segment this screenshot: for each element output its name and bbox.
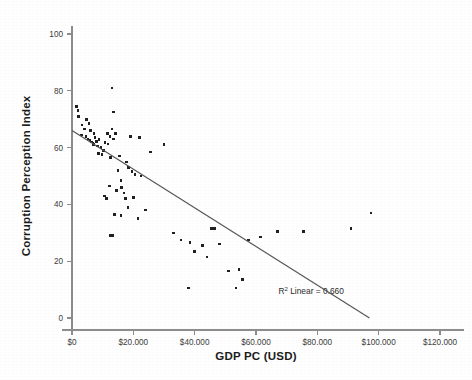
x-tick-label: $20.000	[119, 338, 149, 347]
x-tick-label: $120.000	[423, 338, 458, 347]
data-point	[144, 209, 147, 212]
data-point	[81, 124, 84, 127]
x-tick-label: $60.000	[241, 338, 271, 347]
data-point	[115, 189, 118, 192]
data-point	[238, 268, 241, 271]
data-point	[88, 122, 91, 125]
data-point	[111, 87, 114, 90]
y-tick-label: 80	[54, 87, 64, 96]
data-point	[127, 206, 130, 209]
data-point	[98, 138, 101, 141]
data-point	[101, 153, 104, 156]
data-point	[213, 227, 216, 230]
data-point	[105, 197, 108, 200]
data-point	[124, 197, 127, 200]
data-point	[206, 256, 209, 259]
x-axis-title: GDP PC (USD)	[215, 350, 296, 362]
data-point	[193, 250, 196, 253]
data-point	[370, 212, 373, 215]
data-point	[134, 173, 137, 176]
data-point	[149, 151, 152, 154]
data-point	[227, 270, 230, 273]
data-point	[113, 213, 116, 216]
data-point	[241, 278, 244, 281]
data-point	[172, 232, 175, 235]
data-point	[302, 230, 305, 233]
data-point	[109, 156, 112, 159]
data-point	[131, 170, 134, 173]
data-point	[180, 239, 183, 242]
y-tick-label: 60	[54, 144, 64, 153]
y-axis-title: Corruption Perception Index	[20, 95, 32, 256]
data-point	[112, 138, 115, 141]
data-point	[137, 217, 140, 220]
data-point	[118, 155, 121, 158]
data-point	[107, 143, 110, 146]
data-point	[109, 135, 112, 138]
data-point	[201, 244, 204, 247]
y-tick-label: 20	[54, 257, 64, 266]
scatter-plot: 020406080100 $0$20.000$40.000$60.000$80.…	[0, 0, 472, 380]
data-point	[75, 105, 78, 108]
data-point	[120, 179, 123, 182]
data-point	[132, 196, 135, 199]
y-tick-label: 0	[58, 314, 63, 323]
r-squared-annotation: R2 Linear = 0.660	[278, 286, 344, 296]
data-point	[77, 109, 80, 112]
data-point	[187, 287, 190, 290]
data-point	[111, 128, 114, 131]
data-point	[120, 214, 123, 217]
annotation-layer: R2 Linear = 0.660	[278, 286, 344, 296]
x-tick-label: $40.000	[180, 338, 210, 347]
data-point	[218, 243, 221, 246]
data-points-layer	[75, 87, 372, 290]
data-point	[117, 169, 120, 172]
data-point	[129, 135, 132, 138]
data-point	[95, 140, 98, 143]
x-tick-label: $100.000	[362, 338, 397, 347]
data-point	[94, 136, 97, 139]
data-point	[106, 132, 109, 135]
data-point	[97, 152, 100, 155]
data-point	[93, 132, 96, 135]
x-axis: $0$20.000$40.000$60.000$80.000$100.000$1…	[62, 330, 464, 347]
data-point	[77, 115, 80, 118]
data-point	[85, 135, 88, 138]
data-point	[103, 195, 106, 198]
data-point	[114, 132, 117, 135]
data-point	[112, 111, 115, 114]
data-point	[123, 192, 126, 195]
x-tick-label: $80.000	[303, 338, 333, 347]
data-point	[259, 236, 262, 239]
x-tick-label: $0	[67, 338, 77, 347]
data-point	[235, 287, 238, 290]
data-point	[83, 128, 86, 131]
data-point	[120, 186, 123, 189]
data-point	[276, 230, 279, 233]
data-point	[104, 141, 107, 144]
y-tick-label: 100	[49, 30, 63, 39]
chart-figure: 020406080100 $0$20.000$40.000$60.000$80.…	[0, 0, 472, 380]
data-point	[350, 227, 353, 230]
data-point	[125, 161, 128, 164]
data-point	[189, 241, 192, 244]
data-point	[163, 143, 166, 146]
data-point	[85, 118, 88, 121]
data-point	[210, 227, 213, 230]
data-point	[138, 136, 141, 139]
y-axis: 020406080100	[49, 26, 72, 330]
y-tick-label: 40	[54, 200, 64, 209]
data-point	[111, 234, 114, 237]
data-point	[89, 129, 92, 132]
data-point	[108, 185, 111, 188]
